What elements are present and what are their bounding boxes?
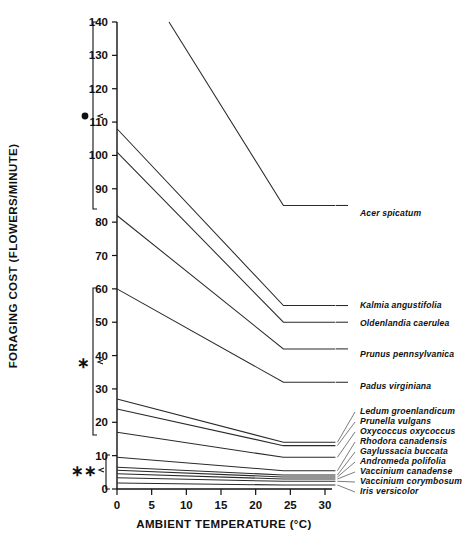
label-leader [337,412,355,442]
species-label-group: Acer spicatumKalmia angustifoliaOldenlan… [359,208,462,496]
single-asterisk-mark: ∗ [77,354,90,371]
y-tick-label: 140 [89,16,108,28]
y-axis-tick-labels: 0102030405060708090100110120130140 [89,16,108,495]
label-leader [337,485,355,492]
x-tick-label: 15 [215,499,228,511]
label-leader [337,452,355,475]
y-tick-label: 20 [95,416,108,428]
species-label: Padus virginiana [360,381,431,391]
x-tick-label: 10 [180,499,193,511]
label-leader [337,481,355,482]
filled-circle-icon [82,113,89,120]
y-axis-title: FORAGING COST (FLOWERS/MINUTE) [7,144,19,369]
y-tick-label: 40 [95,350,108,362]
x-tick-label: 25 [284,499,297,511]
x-axis-tick-labels: 051015202530 [114,499,332,511]
label-leader-lines [336,205,355,492]
label-leader [337,442,355,471]
y-tick-label: 50 [95,316,108,328]
data-line-11 [117,470,335,477]
data-line-4 [117,215,335,348]
y-tick-label: 90 [95,183,108,195]
x-tick-label: 30 [319,499,332,511]
y-tick-label: 30 [95,383,108,395]
x-tick-label: 5 [148,499,155,511]
species-label: Vaccinium canadense [360,466,452,476]
label-leader [337,422,355,446]
chart-figure: 0102030405060708090100110120130140 05101… [0,0,471,553]
species-label: Iris versicolor [360,486,419,496]
species-label: Prunus pennsylvanica [360,349,454,359]
label-leader [337,472,355,479]
species-label: Vaccinium corymbosum [360,476,462,486]
species-label: Ledum groenlandicum [360,406,455,416]
data-line-14 [117,483,335,485]
species-label: Rhodora canadensis [360,436,447,446]
label-leader [337,462,355,477]
y-tick-label: 100 [89,149,108,161]
label-leader [337,432,355,457]
x-axis-title: AMBIENT TEMPERATURE (°C) [136,518,312,530]
y-tick-label: 120 [89,83,108,95]
y-tick-label: 110 [89,116,108,128]
data-line-3 [117,152,335,322]
species-label: Oldenlandia caerulea [360,318,450,328]
species-label: Gaylussacia buccata [360,446,448,456]
foraging-cost-vs-temperature-chart: 0102030405060708090100110120130140 05101… [0,0,471,553]
data-line-2 [117,129,335,306]
y-tick-label: 60 [95,283,108,295]
double-asterisk-mark: ∗∗ [71,462,97,479]
x-tick-label: 0 [114,499,120,511]
y-tick-label: 130 [89,49,108,61]
x-tick-label: 20 [249,499,262,511]
data-line-6 [117,399,335,442]
species-label: Prunella vulgans [360,416,431,426]
bracket-lower-pointer [99,468,104,472]
species-label: Kalmia angustifolia [360,300,442,310]
species-label: Oxycoccus oxycoccus [360,426,456,436]
y-tick-label: 80 [95,216,108,228]
data-line-1 [169,22,335,205]
data-line-8 [117,432,335,457]
species-label: Andromeda polifolia [359,456,446,466]
y-axis-ticks [112,22,117,489]
y-tick-label: 70 [95,250,108,262]
species-label: Acer spicatum [359,208,421,218]
x-axis-ticks [117,489,325,495]
data-series-group [117,22,335,485]
